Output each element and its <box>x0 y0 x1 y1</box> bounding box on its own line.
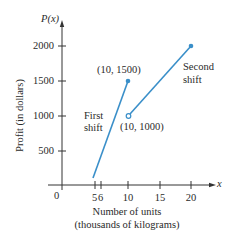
x-tick-label-5: 5 <box>92 192 97 204</box>
first-shift-label-line2: shift <box>84 122 103 134</box>
second-shift-endpoint-closed <box>189 44 194 49</box>
x-axis-title-line1: Number of units <box>72 205 182 218</box>
first-shift-endpoint-closed <box>126 79 131 84</box>
y-axis-title: Profit (in dollars) <box>14 61 25 171</box>
annotation-10-1000: (10, 1000) <box>120 121 164 133</box>
first-shift-label-line1: First <box>84 110 103 122</box>
x-axis-arrow-icon <box>209 183 216 187</box>
x-axis-title-line2: (thousands of kilograms) <box>72 218 182 231</box>
x-tick-label-15: 15 <box>150 192 170 204</box>
y-tick-label-2000: 2000 <box>18 40 54 52</box>
second-shift-endpoint-open <box>126 114 131 119</box>
origin-label: 0 <box>54 190 59 202</box>
y-axis-name: P(x) <box>41 13 59 25</box>
second-shift-label-line2: shift <box>183 74 202 86</box>
annotation-10-1500: (10, 1500) <box>97 64 141 76</box>
x-axis-name: x <box>217 178 222 190</box>
x-tick-label-10: 10 <box>118 192 138 204</box>
second-shift-line <box>130 46 191 114</box>
x-tick-label-6: 6 <box>98 192 103 204</box>
x-tick-label-20: 20 <box>181 192 201 204</box>
y-axis-arrow-icon <box>60 20 64 27</box>
second-shift-label-line1: Second <box>183 61 214 73</box>
